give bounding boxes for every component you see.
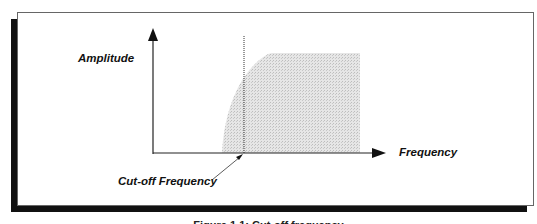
figure-caption: Figure 1.1: Cut-off frequency [0, 219, 537, 224]
frequency-response-diagram [0, 0, 537, 224]
y-axis-arrowhead-icon [148, 28, 158, 41]
cutoff-frequency-label: Cut-off Frequency [118, 175, 217, 187]
passband-shaded-region [222, 53, 360, 153]
x-axis-label: Frequency [399, 146, 457, 158]
x-axis-arrowhead-icon [372, 148, 386, 158]
y-axis-label: Amplitude [78, 52, 134, 64]
